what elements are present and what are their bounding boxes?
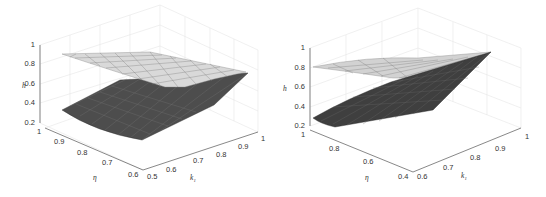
eta-tick: 0.4	[398, 172, 408, 181]
left-k-ticks: 0.5 0.6 0.7 0.8 0.9 1 k₁	[147, 134, 265, 182]
z-tick: 0.8	[25, 59, 35, 68]
k-tick: 0.8	[470, 153, 480, 162]
eta-tick: 0.7	[102, 158, 112, 167]
eta-tick: 1	[37, 127, 41, 136]
k-axis-label: k₁	[190, 173, 196, 182]
left-surface-plot: 1 0.8 0.6 0.4 0.2 h 1 0.9 0.8 0.7 0.6 η …	[0, 0, 273, 197]
right-surface-plot: 1 0.8 0.6 0.4 0.2 h 1 0.8 0.6 0.4 η 0.6 …	[273, 0, 546, 197]
right-k-ticks: 0.6 0.7 0.8 0.9 1 k₁	[417, 132, 529, 181]
k-tick: 0.7	[193, 156, 203, 165]
figure: 1 0.8 0.6 0.4 0.2 h 1 0.9 0.8 0.7 0.6 η …	[0, 0, 546, 197]
eta-axis-label: η	[365, 173, 369, 182]
right-eta-ticks: 1 0.8 0.6 0.4 η	[301, 130, 408, 182]
k-tick: 1	[525, 132, 529, 141]
k-tick: 0.5	[147, 172, 157, 181]
z-tick: 0.6	[295, 82, 305, 91]
right-z-ticks: 1 0.8 0.6 0.4 0.2 h	[283, 43, 305, 130]
k-tick: 0.8	[216, 150, 226, 159]
eta-tick: 0.8	[329, 144, 339, 153]
z-tick: 0.4	[25, 98, 35, 107]
k-tick: 0.9	[495, 144, 505, 153]
eta-tick: 0.6	[128, 170, 138, 179]
k-axis-label: k₁	[461, 171, 467, 180]
z-tick: 1	[31, 40, 35, 49]
left-z-ticks: 1 0.8 0.6 0.4 0.2 h	[22, 40, 35, 127]
k-tick: 0.6	[417, 172, 427, 181]
z-tick: 0.4	[295, 102, 305, 111]
k-tick: 0.9	[238, 142, 248, 151]
z-tick: 1	[301, 43, 305, 52]
z-tick: 0.6	[25, 79, 35, 88]
eta-tick: 0.8	[77, 148, 87, 157]
eta-tick: 0.9	[54, 137, 64, 146]
z-tick: 0.2	[295, 121, 305, 130]
k-tick: 0.6	[166, 165, 176, 174]
z-axis-label: h	[22, 81, 26, 90]
z-tick: 0.8	[295, 63, 305, 72]
k-tick: 0.7	[443, 163, 453, 172]
k-tick: 1	[261, 134, 265, 143]
right-plot-svg: 1 0.8 0.6 0.4 0.2 h 1 0.8 0.6 0.4 η 0.6 …	[273, 0, 546, 197]
eta-tick: 0.6	[363, 157, 373, 166]
z-axis-label: h	[283, 84, 287, 93]
eta-axis-label: η	[93, 173, 97, 182]
left-plot-svg: 1 0.8 0.6 0.4 0.2 h 1 0.9 0.8 0.7 0.6 η …	[0, 0, 273, 197]
z-tick: 0.2	[25, 118, 35, 127]
eta-tick: 1	[301, 130, 305, 139]
